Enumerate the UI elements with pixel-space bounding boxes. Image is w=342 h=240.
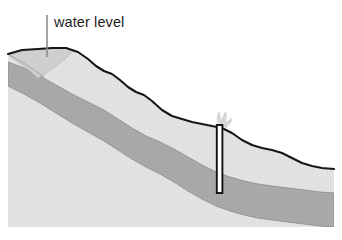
figure-container: water level <box>0 0 342 240</box>
water-level-label: water level <box>53 14 124 30</box>
cross-section-diagram: water level <box>0 0 342 240</box>
artesian-well[interactable] <box>217 125 223 193</box>
well-bore[interactable] <box>217 125 223 193</box>
